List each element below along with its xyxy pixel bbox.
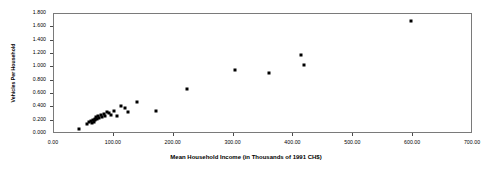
scatter-chart-figure: Vehicles Per Household 0.0000.2000.4000.… bbox=[0, 0, 492, 173]
x-tick-label: 500.00 bbox=[344, 140, 360, 145]
y-tick-label: 1.200 bbox=[33, 50, 46, 55]
y-tick-label: 1.800 bbox=[33, 10, 46, 15]
data-point bbox=[127, 111, 130, 114]
data-point bbox=[104, 114, 107, 117]
x-tick-label: 200.00 bbox=[165, 140, 181, 145]
data-point bbox=[303, 64, 306, 67]
x-tick-label: 0.00 bbox=[48, 140, 58, 145]
data-points-layer bbox=[54, 14, 471, 132]
y-tick-label: 1.600 bbox=[33, 24, 46, 29]
x-tick-label: 100.00 bbox=[105, 140, 121, 145]
x-tick-mark bbox=[233, 133, 234, 136]
data-point bbox=[77, 128, 80, 131]
data-point bbox=[120, 105, 123, 108]
x-tick-label: 700.00 bbox=[464, 140, 480, 145]
data-point bbox=[113, 109, 116, 112]
x-tick-mark bbox=[412, 133, 413, 136]
x-tick-mark bbox=[292, 133, 293, 136]
data-point bbox=[116, 115, 119, 118]
y-tick-label: 1.400 bbox=[33, 37, 46, 42]
x-axis-title: Mean Household Income (in Thousands of 1… bbox=[170, 154, 321, 160]
data-point bbox=[186, 88, 189, 91]
y-tick-label: 0.600 bbox=[33, 90, 46, 95]
data-point bbox=[154, 110, 157, 113]
plot-area bbox=[53, 13, 472, 133]
x-tick-label: 300.00 bbox=[224, 140, 240, 145]
data-point bbox=[268, 71, 271, 74]
x-tick-mark bbox=[352, 133, 353, 136]
data-point bbox=[135, 101, 138, 104]
x-axis: 0.00100.00200.00300.00400.00500.00600.00… bbox=[0, 133, 492, 173]
x-tick-mark bbox=[113, 133, 114, 136]
data-point bbox=[300, 54, 303, 57]
y-tick-label: 0.200 bbox=[33, 117, 46, 122]
y-tick-label: 1.000 bbox=[33, 64, 46, 69]
data-point bbox=[233, 68, 236, 71]
data-point bbox=[100, 115, 103, 118]
y-tick-label: 0.400 bbox=[33, 104, 46, 109]
y-tick-label: 0.800 bbox=[33, 77, 46, 82]
data-point bbox=[409, 20, 412, 23]
data-point bbox=[110, 113, 113, 116]
data-point bbox=[123, 106, 126, 109]
x-tick-label: 400.00 bbox=[284, 140, 300, 145]
x-tick-label: 600.00 bbox=[404, 140, 420, 145]
x-tick-mark bbox=[173, 133, 174, 136]
